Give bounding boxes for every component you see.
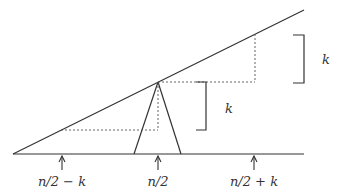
tick-label-right: n/2 + k xyxy=(230,174,278,189)
tick-arrow-left-icon xyxy=(59,156,65,170)
triangle-right-side xyxy=(158,82,181,154)
tick-label-left: n/2 − k xyxy=(38,174,86,189)
label-k-lower: k xyxy=(225,101,233,116)
tick-label-center: n/2 xyxy=(147,174,168,189)
tick-arrow-center-icon xyxy=(155,156,161,170)
label-k-upper: k xyxy=(322,52,330,67)
tick-arrow-right-icon xyxy=(251,156,257,170)
diagram-canvas: k k n/2 − k n/2 n/2 + k xyxy=(0,0,339,196)
bracket-upper xyxy=(293,35,304,83)
bracket-lower xyxy=(196,82,206,130)
